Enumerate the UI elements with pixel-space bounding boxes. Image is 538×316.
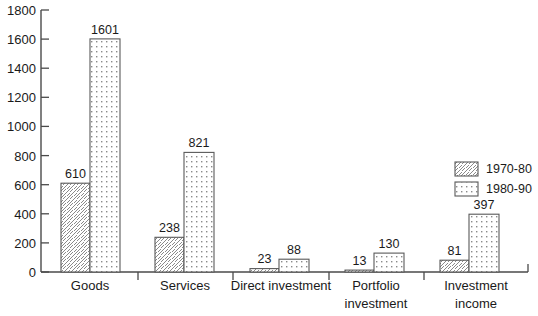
value-label-portfolio-investment-1970-80: 13 — [353, 254, 367, 268]
y-tick-label: 1400 — [7, 61, 36, 76]
x-category-label-services: Services — [160, 278, 210, 293]
legend: 1970-80 1980-90 — [455, 162, 532, 196]
y-tick-label: 1200 — [7, 90, 36, 105]
value-label-investment-income-1970-80: 81 — [448, 244, 462, 258]
legend-label-1980-90: 1980-90 — [486, 182, 532, 196]
x-axis-category-labels: Goods Services Direct investment Portfol… — [71, 278, 508, 311]
y-tick-label: 1000 — [7, 119, 36, 134]
bars-group-services: 238 821 — [155, 136, 214, 272]
value-label-goods-1980-90: 1601 — [91, 23, 119, 37]
bar-goods-1970-80[interactable] — [61, 183, 90, 272]
x-category-label-investment-income-line2: income — [455, 296, 497, 311]
x-category-label-goods: Goods — [71, 278, 110, 293]
y-tick-label: 1600 — [7, 32, 36, 47]
bar-direct-investment-1970-80[interactable] — [250, 269, 279, 272]
chart-canvas: 1800 1600 1400 1200 1000 800 600 400 200… — [0, 0, 538, 316]
bar-services-1970-80[interactable] — [155, 237, 184, 272]
y-axis-tick-labels: 1800 1600 1400 1200 1000 800 600 400 200… — [7, 3, 36, 280]
bar-goods-1980-90[interactable] — [90, 39, 120, 272]
bar-investment-income-1980-90[interactable] — [469, 214, 499, 272]
value-label-services-1980-90: 821 — [189, 136, 210, 150]
bars-group-investment-income: 81 397 — [440, 198, 499, 272]
bar-investment-income-1970-80[interactable] — [440, 260, 469, 272]
bars-group-portfolio-investment: 13 130 — [345, 237, 404, 272]
y-axis: 1800 1600 1400 1200 1000 800 600 400 200… — [7, 3, 49, 280]
bar-portfolio-investment-1970-80[interactable] — [345, 270, 374, 272]
value-label-investment-income-1980-90: 397 — [474, 198, 495, 212]
value-label-portfolio-investment-1980-90: 130 — [379, 237, 400, 251]
y-tick-label: 400 — [14, 207, 36, 222]
value-label-direct-investment-1980-90: 88 — [287, 243, 301, 257]
bar-services-1980-90[interactable] — [184, 152, 214, 272]
legend-swatch-1970-80 — [455, 162, 478, 176]
y-tick-label: 0 — [29, 265, 36, 280]
y-tick-label: 1800 — [7, 3, 36, 18]
y-tick-label: 800 — [14, 149, 36, 164]
bar-chart: 1800 1600 1400 1200 1000 800 600 400 200… — [0, 0, 538, 316]
x-category-label-direct-investment: Direct investment — [231, 278, 332, 293]
x-category-label-investment-income-line1: Investment — [444, 278, 508, 293]
value-label-direct-investment-1970-80: 23 — [258, 252, 272, 266]
y-axis-ticks — [41, 10, 49, 272]
legend-swatch-1980-90 — [455, 182, 478, 196]
bars-group-direct-investment: 23 88 — [250, 243, 309, 272]
bar-direct-investment-1980-90[interactable] — [279, 259, 309, 272]
legend-label-1970-80: 1970-80 — [486, 162, 532, 176]
value-label-services-1970-80: 238 — [159, 221, 180, 235]
y-tick-label: 200 — [14, 236, 36, 251]
y-tick-label: 600 — [14, 178, 36, 193]
bar-portfolio-investment-1980-90[interactable] — [374, 253, 404, 272]
bars-group-goods: 610 1601 — [61, 23, 120, 272]
x-category-label-portfolio-investment-line1: Portfolio — [352, 278, 400, 293]
x-category-label-portfolio-investment-line2: investment — [345, 296, 408, 311]
value-label-goods-1970-80: 610 — [65, 167, 86, 181]
